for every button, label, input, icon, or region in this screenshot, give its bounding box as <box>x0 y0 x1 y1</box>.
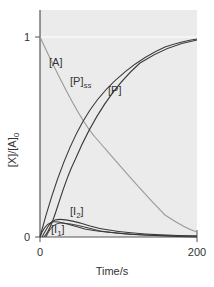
label-P: [P] <box>108 84 121 96</box>
label-Pss-sub: ss <box>83 81 91 90</box>
x-tick-label-200: 200 <box>188 246 206 258</box>
y-axis-title-sub: 0 <box>12 132 21 137</box>
label-A: [A] <box>49 56 62 68</box>
y-axis-title-main: [X]/[A] <box>6 137 18 167</box>
y-axis-title: [X]/[A]0 <box>6 132 21 167</box>
y-tick-label-0: 0 <box>24 231 30 243</box>
label-Pss-main: [P] <box>70 75 83 87</box>
kinetics-chart: 1 0 0 200 Time/s [X]/[A]0 [A] [P]ss [P] … <box>0 0 214 287</box>
svg-text:[X]/[A]0: [X]/[A]0 <box>6 132 21 167</box>
x-axis-title: Time/s <box>96 265 129 277</box>
y-tick-label-1: 1 <box>24 31 30 43</box>
label-I1-close: ] <box>62 223 65 235</box>
x-tick-label-0: 0 <box>37 246 43 258</box>
label-I2-close: ] <box>81 205 84 217</box>
